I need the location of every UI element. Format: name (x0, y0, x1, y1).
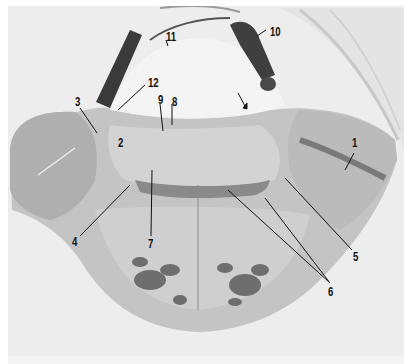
label-11: 11 (166, 31, 176, 43)
label-2: 2 (118, 137, 123, 149)
label-3: 3 (75, 96, 80, 108)
label-5: 5 (353, 251, 358, 263)
label-7: 7 (148, 238, 153, 250)
label-1: 1 (352, 137, 357, 149)
label-4: 4 (72, 236, 77, 248)
label-12: 12 (148, 77, 159, 89)
plate-bottom-edge (8, 356, 404, 364)
histology-plate: 1 2 3 4 5 6 7 8 9 10 11 12 (8, 6, 404, 356)
tissue-section-drawing (8, 6, 404, 356)
label-6: 6 (328, 286, 333, 298)
label-10: 10 (270, 26, 281, 38)
label-8: 8 (172, 96, 177, 108)
label-9: 9 (158, 94, 163, 106)
